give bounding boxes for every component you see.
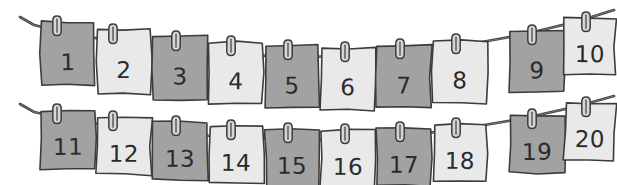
clothespin-19 xyxy=(528,109,536,129)
card-number-label: 13 xyxy=(165,146,195,172)
clothespin-14 xyxy=(227,120,235,140)
card-number-label: 6 xyxy=(340,74,355,100)
card-number-label: 7 xyxy=(396,72,411,98)
clothespin-12 xyxy=(109,111,117,131)
number-card-4[interactable]: 4 xyxy=(208,41,264,105)
clothespin-6 xyxy=(341,42,349,62)
card-number-label: 10 xyxy=(575,41,606,67)
number-card-9[interactable]: 9 xyxy=(508,30,565,92)
clothespin-3 xyxy=(172,31,180,51)
clothespin-7 xyxy=(396,39,404,59)
card-number-label: 12 xyxy=(109,141,140,167)
card-number-label: 2 xyxy=(116,57,131,83)
card-number-label: 5 xyxy=(284,72,299,98)
clothespin-17 xyxy=(396,122,404,142)
number-card-2[interactable]: 2 xyxy=(96,28,153,95)
clothespin-20 xyxy=(582,97,590,117)
card-number-label: 19 xyxy=(522,139,553,165)
clothespin-15 xyxy=(284,123,292,143)
card-number-label: 18 xyxy=(445,148,476,174)
clothespin-2 xyxy=(109,24,117,44)
clothespin-8 xyxy=(452,34,460,54)
clothespin-10 xyxy=(582,12,590,32)
card-number-label: 15 xyxy=(277,153,307,179)
clothespin-9 xyxy=(528,25,536,45)
clothesline-number-cards-illustration: 1234567891011121314151617181920 xyxy=(0,0,617,185)
clothespin-13 xyxy=(172,116,180,136)
card-number-label: 9 xyxy=(529,57,544,83)
card-number-label: 4 xyxy=(228,68,243,94)
number-card-12[interactable]: 12 xyxy=(96,117,153,176)
clothespin-11 xyxy=(53,104,61,124)
clothespin-16 xyxy=(341,124,349,144)
number-card-11[interactable]: 11 xyxy=(39,110,96,169)
card-number-label: 14 xyxy=(221,150,251,176)
clothespin-1 xyxy=(53,16,61,36)
card-number-label: 20 xyxy=(575,126,606,152)
clothespin-18 xyxy=(452,118,460,138)
clothespin-5 xyxy=(284,40,292,60)
number-card-19[interactable]: 19 xyxy=(509,115,566,174)
card-number-label: 17 xyxy=(389,152,419,178)
number-card-14[interactable]: 14 xyxy=(209,126,265,184)
number-card-1[interactable]: 1 xyxy=(39,20,94,86)
card-number-label: 11 xyxy=(53,134,84,160)
card-number-label: 16 xyxy=(333,154,363,180)
card-number-label: 1 xyxy=(60,49,75,75)
card-number-label: 8 xyxy=(452,67,467,93)
clothespin-4 xyxy=(227,36,235,56)
card-number-label: 3 xyxy=(172,63,187,89)
